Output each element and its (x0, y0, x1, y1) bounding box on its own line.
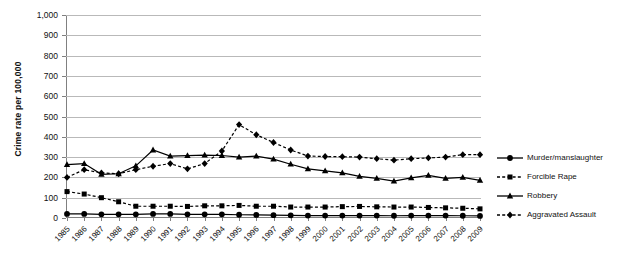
data-point (202, 160, 208, 167)
y-tick-label: 200 (16, 173, 58, 181)
data-point (460, 174, 466, 180)
series-aggravated-assault (64, 121, 483, 181)
data-point (305, 205, 310, 210)
data-point (185, 211, 191, 217)
data-point (219, 211, 225, 217)
data-point (116, 211, 122, 217)
x-axis-tick (170, 218, 171, 221)
data-point (167, 211, 173, 217)
legend-item[interactable]: Aggravated Assault (496, 205, 623, 224)
data-point (99, 211, 105, 217)
data-point (288, 205, 293, 210)
data-point (150, 147, 156, 153)
data-point (374, 204, 379, 209)
data-point (202, 211, 208, 217)
legend-label: Murder/manslaughter (527, 153, 603, 162)
data-point (443, 213, 449, 219)
series-robbery (64, 147, 483, 184)
data-point (322, 153, 328, 160)
data-point (391, 213, 397, 219)
data-point (168, 204, 173, 209)
data-point (408, 155, 414, 162)
legend: Murder/manslaughterForcible RapeRobberyA… (496, 148, 623, 224)
data-point (65, 189, 70, 194)
y-tick-label: 500 (16, 113, 58, 121)
x-axis-tick (153, 218, 154, 221)
y-tick-label: 900 (16, 31, 58, 39)
data-point (357, 204, 362, 209)
data-point (253, 131, 259, 138)
data-point (322, 213, 328, 219)
data-point (184, 165, 190, 172)
data-point (477, 213, 483, 219)
data-point (305, 213, 311, 219)
data-point (340, 204, 345, 209)
legend-marker-icon (496, 153, 524, 163)
y-axis-tick (62, 218, 66, 219)
data-point (391, 205, 396, 210)
data-point (253, 153, 259, 159)
series-forcible-rape (65, 189, 483, 211)
data-point (219, 203, 224, 208)
data-point (81, 160, 87, 166)
data-point (460, 206, 465, 211)
y-tick-label: 300 (16, 153, 58, 161)
data-point (271, 212, 277, 218)
x-axis-tick (256, 218, 257, 221)
data-point (236, 212, 242, 218)
data-point (236, 121, 242, 128)
chart-figure: Crime rate per 100,000 01002003004005006… (0, 0, 623, 257)
data-point (339, 213, 345, 219)
data-point (409, 205, 414, 210)
data-point (460, 151, 466, 158)
data-point (82, 192, 87, 197)
data-point (116, 199, 121, 204)
x-axis-tick (187, 218, 188, 221)
data-point (254, 204, 259, 209)
data-point (151, 204, 156, 209)
data-point (202, 203, 207, 208)
data-point (426, 205, 431, 210)
data-point (323, 205, 328, 210)
data-point (271, 204, 276, 209)
data-point (81, 211, 87, 217)
x-axis-tick (205, 218, 206, 221)
legend-label: Robbery (527, 191, 557, 200)
y-tick-label: 700 (16, 72, 58, 80)
data-point (460, 213, 466, 219)
y-tick-label: 800 (16, 52, 58, 60)
data-point (99, 195, 104, 200)
y-tick-label: 600 (16, 92, 58, 100)
x-axis-tick (136, 218, 137, 221)
data-point (374, 213, 380, 219)
data-point (374, 155, 380, 162)
data-point (408, 213, 414, 219)
plot-area: 01002003004005006007008009001,000 198519… (66, 15, 481, 218)
data-point (356, 154, 362, 161)
x-axis-tick (119, 218, 120, 221)
data-point (64, 211, 70, 217)
data-point (253, 212, 259, 218)
legend-item[interactable]: Robbery (496, 186, 623, 205)
data-point (478, 206, 483, 211)
data-point (508, 174, 513, 179)
data-point (507, 155, 513, 161)
y-tick-label: 1,000 (16, 11, 58, 19)
legend-item[interactable]: Forcible Rape (496, 167, 623, 186)
x-axis-tick (84, 218, 85, 221)
figure-caption-strip (0, 0, 623, 7)
legend-marker-icon (496, 210, 524, 220)
series-line (67, 150, 480, 181)
legend-item[interactable]: Murder/manslaughter (496, 148, 623, 167)
x-axis-tick (101, 218, 102, 221)
data-point (237, 203, 242, 208)
data-point (391, 157, 397, 164)
x-axis-tick (239, 218, 240, 221)
series-murder-manslaughter (64, 211, 483, 219)
data-point (357, 213, 363, 219)
data-point (150, 211, 156, 217)
legend-marker-icon (496, 191, 524, 201)
data-point (425, 213, 431, 219)
data-point (339, 153, 345, 160)
data-point (477, 151, 483, 158)
